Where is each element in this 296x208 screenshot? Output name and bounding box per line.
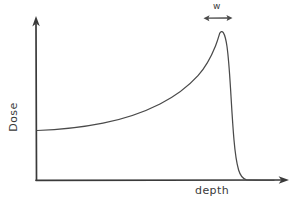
bragg-peak-curve: [37, 32, 274, 181]
bragg-peak-figure: w Dose depth: [0, 0, 296, 208]
x-axis-label: depth: [195, 184, 229, 197]
width-marker-label: w: [213, 1, 221, 11]
depth-dose-plot: [0, 0, 296, 208]
y-axis-label: Dose: [7, 97, 20, 137]
y-axis: [32, 16, 40, 180]
width-marker-arrow: [204, 15, 233, 21]
